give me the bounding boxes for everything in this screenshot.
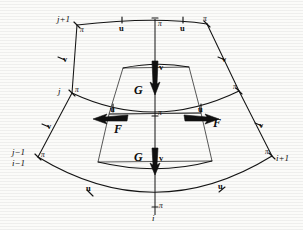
radial-edge-left-upper [72,25,77,93]
index-label-mid-left: j [57,86,61,96]
label-pi-mid-center: π [158,108,162,117]
label-G-lower: G [134,150,143,164]
label-v-left-upper: v [63,54,68,64]
label-u-top-left: u [119,23,124,33]
flux-arrow-group [93,61,219,175]
label-pi-mid-left: π [75,85,79,94]
F-left-arrow [93,114,128,124]
label-v-left-lower: v [47,121,52,131]
label-pi-mid-right: π [233,82,237,91]
label-u-bot-left: u [86,183,91,193]
index-label-top-left: j+1 [56,14,70,24]
label-u-mid-left: u [110,104,115,114]
label-u-top-right: u [180,23,185,33]
label-pi-bot-left: π [41,150,45,159]
figure-canvas: π π π π π π π π π u u u u u u v v v v v … [0,0,303,230]
index-label-bottom-right: i+1 [276,153,289,163]
label-v-right-upper: v [222,54,227,64]
label-pi-top-center: π [158,19,162,28]
label-pi-bot-right: π [265,147,269,156]
flux-label-group: F F G G [113,83,221,164]
arc-top [77,20,207,25]
label-v-right-lower: v [259,120,264,130]
index-label-bottom-left-upper: j−1 [11,147,25,157]
label-pi-top-left: π [80,25,84,34]
tick-pi-bot-right [269,153,275,159]
label-pi-top-right: π [203,14,207,23]
label-G-upper: G [134,83,143,97]
label-u-bot-right: u [218,181,223,191]
tick-pi-mid-right [236,88,242,94]
index-label-bottom-left-lower: i−1 [12,158,25,168]
index-label-group: j+1 j j−1 i−1 i+1 i [11,14,289,223]
label-pi-bot-center: π [159,201,163,210]
label-F-right: F [212,116,221,130]
staggered-grid-diagram: π π π π π π π π π u u u u u u v v v v v … [0,0,303,230]
label-F-left: F [113,122,122,136]
label-u-mid-right: u [198,104,203,114]
arrow-head-f-left [93,114,128,124]
